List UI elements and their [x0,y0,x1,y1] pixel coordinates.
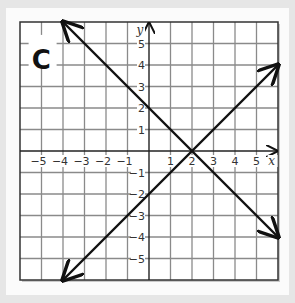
y-tick-label: −4 [129,231,145,244]
y-tick-label: 5 [138,38,145,51]
y-tick-label: 1 [138,124,145,137]
x-tick-label: −4 [52,155,68,168]
y-tick-label: −5 [129,253,145,266]
x-tick-label: 4 [232,155,239,168]
x-tick-label: 5 [253,155,260,168]
x-axis-label: x [268,154,275,168]
panel-label: C [32,45,51,75]
x-tick-label: 2 [189,155,196,168]
x-tick-label: −5 [30,155,46,168]
y-tick-label: 3 [138,81,145,94]
y-tick-label: 4 [138,59,145,72]
x-tick-label: 3 [210,155,217,168]
coordinate-plane: −5−4−3−2−112345−5−4−3−2−112345xyC [0,0,295,303]
x-tick-label: −3 [73,155,89,168]
x-tick-label: −2 [95,155,111,168]
x-tick-label: 1 [167,155,174,168]
y-axis-label: y [136,23,144,37]
y-tick-label: −1 [129,167,145,180]
